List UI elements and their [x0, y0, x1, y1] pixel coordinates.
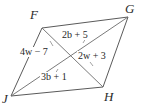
vertex-label-F: F [30, 8, 38, 21]
leader-tick-right [90, 62, 93, 66]
segment-label-2w-plus-3: 2w + 3 [77, 51, 107, 61]
vertex-label-H: H [104, 90, 113, 103]
segment-label-3b-plus-1: 3b + 1 [40, 72, 68, 82]
geometry-figure: F G H J 2b + 5 4w − 7 2w + 3 3b + 1 [0, 0, 144, 111]
segment-label-2b-plus-5: 2b + 5 [61, 30, 89, 40]
leader-tick-left [50, 41, 53, 46]
side-HJ [11, 87, 103, 96]
side-FG [42, 17, 128, 28]
vertex-label-J: J [2, 92, 8, 105]
segment-label-4w-minus-7: 4w − 7 [19, 47, 49, 57]
vertex-label-G: G [125, 2, 134, 15]
